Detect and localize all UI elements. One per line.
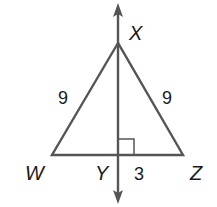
vertex-label-x: X <box>128 22 143 44</box>
triangle-diagram: X W Y Z 9 9 3 <box>0 0 217 207</box>
vertex-label-y: Y <box>95 162 110 184</box>
length-label-yz: 3 <box>134 164 144 184</box>
length-label-xz: 9 <box>162 88 172 108</box>
right-angle-marker <box>118 139 134 155</box>
vertex-label-w: W <box>25 162 46 184</box>
vertex-label-z: Z <box>189 162 203 184</box>
length-label-wx: 9 <box>58 88 68 108</box>
